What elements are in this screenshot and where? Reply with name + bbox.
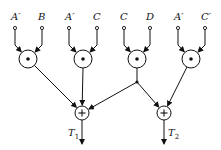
input-terminal: [67, 26, 70, 29]
connection-wire: [168, 67, 187, 106]
input-wire-arrow: [124, 45, 130, 52]
wiring: [0, 0, 221, 150]
input-label: A′: [65, 12, 75, 22]
input-terminal: [148, 26, 151, 29]
input-wire-arrow: [69, 45, 76, 52]
input-terminal: [40, 26, 43, 29]
input-label: C: [93, 12, 101, 22]
input-terminal: [13, 26, 16, 29]
connection-wire: [89, 82, 137, 109]
input-label: C: [120, 12, 128, 22]
and-dot-icon: [26, 57, 30, 61]
input-terminal: [176, 26, 179, 29]
input-wire-arrow: [178, 45, 184, 52]
output-label: T1: [68, 128, 79, 141]
input-terminal: [203, 26, 206, 29]
input-label: A′: [11, 12, 21, 22]
input-wire-arrow: [90, 45, 97, 52]
and-dot-icon: [135, 57, 139, 61]
output-label: T2: [168, 128, 179, 141]
input-terminal: [95, 26, 98, 29]
connection-wire: [34, 65, 76, 107]
input-label: C′: [201, 12, 211, 22]
input-label: D: [146, 12, 154, 22]
input-wire-arrow: [35, 45, 42, 52]
and-dot-icon: [189, 57, 193, 61]
connection-wire: [137, 82, 159, 107]
and-dot-icon: [81, 57, 85, 61]
input-wire-arrow: [198, 45, 205, 52]
input-label: B: [38, 12, 45, 22]
input-wire-arrow: [15, 45, 21, 52]
input-label: A′: [174, 12, 184, 22]
input-wire-arrow: [144, 45, 150, 52]
connection-wire: [82, 68, 83, 105]
logic-diagram: A′BA′CCDA′C′T1T2: [0, 0, 221, 150]
input-terminal: [122, 26, 125, 29]
